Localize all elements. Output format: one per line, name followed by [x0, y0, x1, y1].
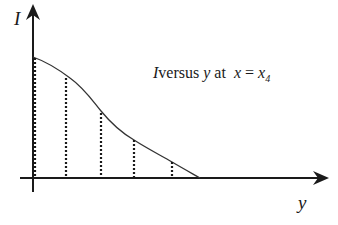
- diagram-canvas: [0, 0, 338, 225]
- caption-at: at: [214, 64, 226, 81]
- caption-variable-x: x: [234, 64, 241, 81]
- horizontal-axis-label: y: [298, 192, 306, 214]
- caption-variable-y: y: [203, 64, 210, 81]
- vertical-axis-label: I: [14, 8, 20, 30]
- dashed-ordinates: [35, 58, 172, 177]
- caption-equals: =: [245, 64, 254, 81]
- caption-x-sub-index: 4: [265, 73, 270, 84]
- diagram-caption: Iversus y at x = x4: [153, 64, 270, 82]
- caption-versus: versus: [158, 64, 199, 81]
